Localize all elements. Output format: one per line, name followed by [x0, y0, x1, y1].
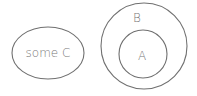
set-c: some C: [12, 27, 84, 79]
set-a: A: [119, 30, 167, 78]
set-b-circle: [101, 3, 187, 89]
set-c-label: some C: [26, 46, 71, 60]
set-b-label: B: [133, 11, 141, 25]
euler-diagram: some C B A: [0, 0, 197, 96]
set-a-label: A: [138, 49, 146, 63]
set-b: B: [101, 3, 187, 89]
